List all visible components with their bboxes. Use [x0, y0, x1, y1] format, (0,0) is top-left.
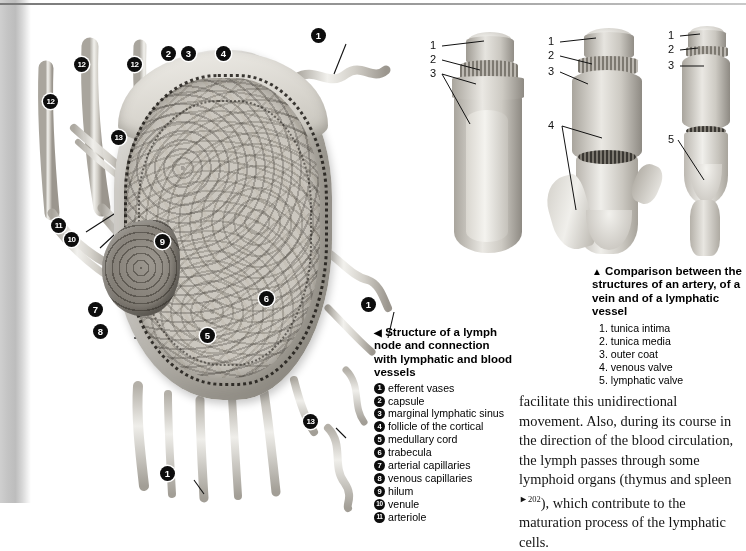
legend-bullet-10: 10 [374, 499, 385, 510]
vein-label-1: 1 [548, 35, 554, 47]
caption-right-title-text: Comparison between the structures of an … [592, 265, 742, 317]
legend-label: arteriole [388, 511, 426, 524]
legend-bullet-4: 4 [374, 421, 385, 432]
callout-badge-6: 6 [259, 291, 274, 306]
legend-label: medullary cord [388, 433, 457, 446]
page-gutter-strip [0, 0, 22, 503]
legend-item: 5medullary cord [374, 433, 514, 446]
legend-label: venous capillaries [388, 472, 472, 485]
lymphatic-label-5: 5 [668, 133, 674, 145]
callout-badge-8: 8 [93, 324, 108, 339]
legend-bullet-7: 7 [374, 460, 385, 471]
triangle-right-icon: ► [519, 494, 528, 504]
caption-right-title: ▲ Comparison between the structures of a… [592, 265, 744, 319]
legend-label: efferent vases [388, 382, 454, 395]
legend-bullet-9: 9 [374, 486, 385, 497]
legend-item: 10venule [374, 498, 514, 511]
vessel-legend-item: 2. tunica media [599, 335, 744, 348]
callout-badge-12: 12 [74, 57, 89, 72]
lymph-node-diagram: 1234121212131110976185131 [28, 8, 388, 503]
legend-bullet-3: 3 [374, 408, 385, 419]
legend-bullet-8: 8 [374, 473, 385, 484]
lymphatic-label-3: 3 [668, 59, 674, 71]
vessel-legend-item: 1. tunica intima [599, 322, 744, 335]
caption-left-title: ◀ Structure of a lymph node and connecti… [374, 326, 514, 380]
legend-label: hilum [388, 485, 413, 498]
legend-bullet-5: 5 [374, 434, 385, 445]
legend-item: 1efferent vases [374, 382, 514, 395]
callout-badge-12: 12 [127, 57, 142, 72]
callout-badge-13: 13 [111, 130, 126, 145]
legend-item: 11arteriole [374, 511, 514, 524]
vein-label-4: 4 [548, 119, 554, 131]
vessel-legend-item: 3. outer coat [599, 348, 744, 361]
vein-label-3: 3 [548, 65, 554, 77]
legend-label: marginal lymphatic sinus [388, 407, 504, 420]
lymphatic-vessel-figure: 1 2 3 5 [660, 14, 746, 259]
cross-reference-page: 202 [528, 494, 541, 504]
legend-bullet-2: 2 [374, 396, 385, 407]
vein-figure: 1 2 3 4 [530, 14, 660, 259]
caption-right-item-list: 1. tunica intima2. tunica media3. outer … [599, 322, 744, 387]
legend-item: 8venous capillaries [374, 472, 514, 485]
callout-badge-10: 10 [64, 232, 79, 247]
artery-label-1: 1 [430, 39, 436, 51]
legend-item: 2capsule [374, 395, 514, 408]
legend-item: 4follicle of the cortical [374, 420, 514, 433]
legend-bullet-11: 11 [374, 512, 385, 523]
vessel-legend-item: 5. lymphatic valve [599, 374, 744, 387]
callout-badge-11: 11 [51, 218, 66, 233]
caption-left-title-text: Structure of a lymph node and connection… [374, 326, 512, 378]
triangle-left-icon: ◀ [374, 327, 382, 338]
callout-badge-7: 7 [88, 302, 103, 317]
legend-item: 3marginal lymphatic sinus [374, 407, 514, 420]
legend-label: arterial capillaries [388, 459, 470, 472]
triangle-up-icon: ▲ [592, 266, 602, 277]
callout-badge-4: 4 [216, 46, 231, 61]
caption-lymph-node: ◀ Structure of a lymph node and connecti… [374, 326, 514, 524]
callout-badge-13: 13 [303, 414, 318, 429]
legend-label: trabecula [388, 446, 432, 459]
vein-label-2: 2 [548, 49, 554, 61]
lymphatic-label-2: 2 [668, 43, 674, 55]
artery-leader-lines [424, 14, 534, 259]
callout-badge-1: 1 [361, 297, 376, 312]
body-paragraph: facilitate this unidirectional movement.… [519, 392, 743, 551]
cross-reference: ►202 [519, 494, 541, 504]
legend-item: 7arterial capillaries [374, 459, 514, 472]
callout-badge-3: 3 [181, 46, 196, 61]
callout-badge-12: 12 [43, 94, 58, 109]
legend-label: venule [388, 498, 419, 511]
legend-bullet-6: 6 [374, 447, 385, 458]
legend-label: follicle of the cortical [388, 420, 483, 433]
artery-label-2: 2 [430, 53, 436, 65]
artery-label-3: 3 [430, 67, 436, 79]
legend-item: 6trabecula [374, 446, 514, 459]
body-text-part1: facilitate this unidirectional movement.… [519, 393, 733, 487]
lymphatic-label-1: 1 [668, 29, 674, 41]
callout-badge-9: 9 [155, 234, 170, 249]
artery-figure: 1 2 3 [424, 14, 534, 259]
legend-label: capsule [388, 395, 425, 408]
callout-badge-1: 1 [311, 28, 326, 43]
vessel-legend-item: 4. venous valve [599, 361, 744, 374]
page-top-rule [0, 3, 746, 5]
callout-badge-2: 2 [161, 46, 176, 61]
callout-badge-1: 1 [160, 466, 175, 481]
callout-badge-5: 5 [200, 328, 215, 343]
caption-left-item-list: 1efferent vases2capsule3marginal lymphat… [374, 382, 514, 524]
body-text-part2: ), which contribute to the maturation pr… [519, 495, 726, 550]
legend-bullet-1: 1 [374, 383, 385, 394]
caption-vessel-comparison: ▲ Comparison between the structures of a… [592, 265, 744, 387]
legend-item: 9hilum [374, 485, 514, 498]
